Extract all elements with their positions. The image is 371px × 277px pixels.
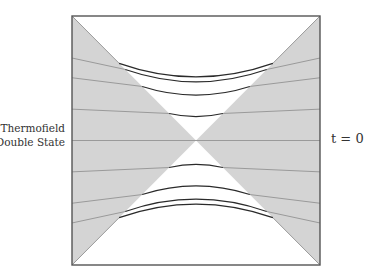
time-slice-label: t = 0 <box>331 131 364 146</box>
slice-top-4-interior-curve <box>169 113 223 116</box>
slice-top-3-interior-curve <box>142 86 250 95</box>
slice-bottom-3-interior-curve <box>142 186 250 195</box>
slice-bottom-4-interior-curve <box>169 164 223 167</box>
state-label-line-1: Thermofield <box>0 121 65 135</box>
state-label-line-2: Double State <box>0 135 65 149</box>
thermofield-double-state-label: Thermofield Double State <box>0 121 65 149</box>
